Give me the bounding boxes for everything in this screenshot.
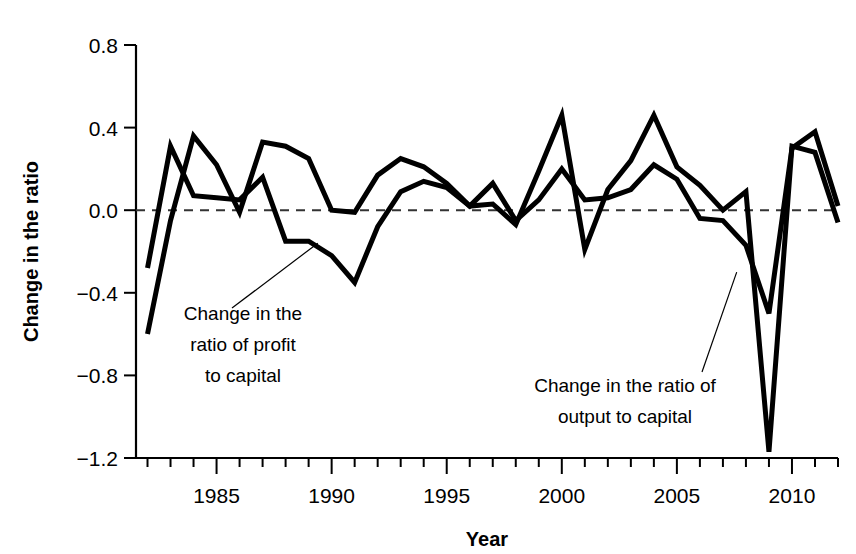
annotation-leader-line-profit [232,243,318,308]
axes [124,45,838,474]
x-tick-label: 2005 [654,484,701,507]
y-axis-ticks [124,45,136,458]
x-tick-label: 1985 [193,484,240,507]
x-axis-tick-labels: 198519901995200020052010 [193,484,815,507]
annotation-output-to-capital: Change in the ratio ofoutput to capital [534,375,716,427]
annotations: Change in theratio of profitto capital C… [184,243,737,427]
y-tick-label: 0.8 [89,34,118,57]
annotation-leader-line-output [702,272,737,372]
y-tick-label: −0.4 [77,282,119,305]
y-tick-label: −0.8 [77,364,118,387]
series-line-output-to-capital [148,115,838,452]
y-axis-title: Change in the ratio [20,161,42,342]
x-axis-title: Year [466,528,508,550]
data-series-group [148,115,838,452]
x-tick-label: 1995 [423,484,470,507]
annotation-line: Change in the [184,303,302,324]
y-tick-label: −1.2 [77,447,118,470]
x-axis-ticks [148,458,838,474]
y-tick-label: 0.4 [89,117,119,140]
x-tick-label: 2000 [538,484,585,507]
y-tick-label: 0.0 [89,199,118,222]
line-chart: −1.2−0.8−0.40.00.40.8 198519901995200020… [0,0,856,554]
annotation-line: to capital [205,365,281,386]
annotation-line: output to capital [558,406,692,427]
series-line-profit-to-capital [148,132,838,314]
chart-figure: −1.2−0.8−0.40.00.40.8 198519901995200020… [0,0,856,554]
x-tick-label: 2010 [769,484,816,507]
annotation-line: ratio of profit [190,334,296,355]
y-axis-tick-labels: −1.2−0.8−0.40.00.40.8 [77,34,119,470]
annotation-line: Change in the ratio of [534,375,716,396]
x-tick-label: 1990 [308,484,355,507]
annotation-profit-to-capital: Change in theratio of profitto capital [184,303,302,386]
